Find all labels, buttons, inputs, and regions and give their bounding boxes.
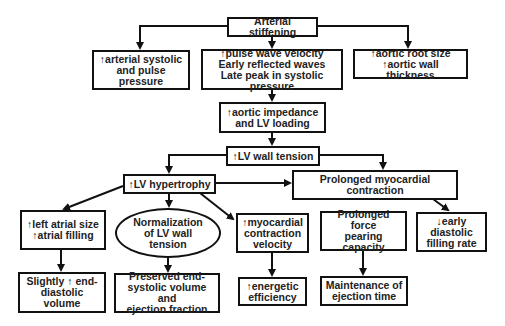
node-lv-hypertrophy: ↑LV hypertrophy	[123, 174, 216, 194]
node-preserved: Preserved end- systolic volume and eject…	[114, 273, 220, 313]
node-aortic-impedance: ↑aortic impedance and LV loading	[219, 102, 326, 133]
node-aortic-root: ↑aortic root size ↑aortic wall thickness	[353, 49, 468, 79]
node-label: Arterial stiffening	[231, 16, 314, 38]
node-label: ↑arterial systolic and pulse pressure	[96, 54, 186, 87]
node-end-diastolic: Slightly ↑ end- diastolic volume	[18, 272, 106, 313]
node-label: Preserved end- systolic volume and eject…	[118, 271, 216, 315]
node-label: ↑left atrial size ↑atrial filling	[27, 219, 99, 241]
node-early-filling: ↓early diastolic filling rate	[416, 212, 487, 252]
node-prolonged-contraction: Prolonged myocardial contraction	[292, 170, 458, 200]
node-arterial-pressure: ↑arterial systolic and pulse pressure	[92, 50, 190, 90]
node-left-atrial: ↑left atrial size ↑atrial filling	[20, 210, 106, 250]
node-label: Maintenance of ejection time	[326, 280, 402, 302]
node-energetic: ↑energetic efficiency	[238, 277, 307, 306]
node-label: ↓early diastolic filling rate	[426, 216, 476, 249]
node-label: Prolonged myocardial contraction	[296, 174, 454, 196]
node-label: ↑pulse wave velocity Early reflected wav…	[205, 48, 339, 92]
node-label: Prolonged force pearing capacity	[324, 209, 403, 253]
node-arterial-stiffening: Arterial stiffening	[227, 17, 318, 37]
node-lv-wall-tension: ↑LV wall tension	[226, 146, 320, 166]
node-label: ↑aortic root size ↑aortic wall thickness	[357, 48, 464, 81]
node-label: ↑energetic efficiency	[247, 281, 299, 303]
node-ejection-time: Maintenance of ejection time	[320, 276, 408, 306]
node-label: ↑aortic impedance and LV loading	[227, 107, 319, 129]
node-label: ↑myocardial contraction velocity	[242, 217, 303, 250]
node-label: ↑LV wall tension	[233, 151, 314, 162]
node-pulse-wave: ↑pulse wave velocity Early reflected wav…	[201, 49, 343, 90]
node-label: Slightly ↑ end- diastolic volume	[22, 276, 102, 309]
node-label: Normalization of LV wall tension	[133, 217, 202, 250]
node-force-bearing: Prolonged force pearing capacity	[320, 211, 407, 251]
node-myocardial-velocity: ↑myocardial contraction velocity	[236, 213, 309, 253]
node-label: ↑LV hypertrophy	[128, 179, 210, 190]
node-normalization: Normalization of LV wall tension	[115, 208, 221, 258]
